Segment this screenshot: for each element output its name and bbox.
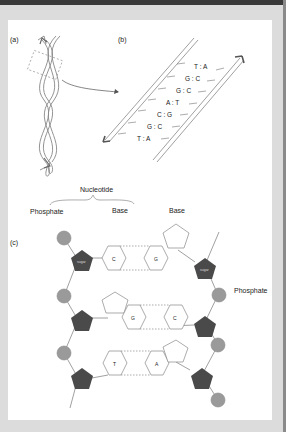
- sugar-labels: sugar sugar: [77, 260, 210, 272]
- phosphate-label-left: Phosphate: [30, 208, 64, 216]
- rung-2-left-base: G: [131, 315, 135, 321]
- base-label-1: Base: [112, 207, 128, 214]
- nucleotide-label: Nucleotide: [80, 186, 113, 193]
- base-pair-rung-3: [103, 340, 188, 375]
- zoom-pointer-line: [62, 80, 118, 92]
- base-pair-rung-2: [102, 292, 188, 329]
- svg-text:G : C: G : C: [185, 75, 200, 82]
- base-pair-rung-1: [102, 224, 189, 270]
- phosphate-label-right: Phosphate: [234, 287, 268, 295]
- double-helix: [38, 36, 60, 176]
- svg-text:T : A: T : A: [137, 135, 151, 142]
- strand-arrow-down-icon: [103, 136, 110, 142]
- rung-1-left-base: C: [112, 256, 116, 262]
- rung-1-right-base: G: [154, 256, 158, 262]
- svg-text:C : G: C : G: [157, 111, 172, 118]
- panel-a-label: (a): [10, 36, 19, 44]
- panel-c-label: (c): [10, 239, 18, 247]
- svg-text:G : C: G : C: [147, 123, 162, 130]
- svg-text:sugar: sugar: [200, 268, 210, 272]
- svg-text:A : T: A : T: [166, 99, 179, 106]
- rung-2-right-base: C: [173, 315, 177, 321]
- svg-text:sugar: sugar: [77, 260, 87, 264]
- rung-3-left-base: T: [113, 361, 116, 367]
- svg-text:G : C: G : C: [176, 87, 191, 94]
- svg-text:T : A: T : A: [194, 63, 208, 70]
- zoom-region-box: [27, 50, 62, 79]
- dna-diagram: (a) (b) T : A G : C G : C A : T C : G: [0, 0, 286, 432]
- base-pair-labels: T : A G : C G : C A : T C : G G : C T : …: [137, 63, 208, 142]
- zoom-pointer-arrowhead-icon: [114, 89, 119, 94]
- base-label-2: Base: [169, 207, 185, 214]
- nucleotide-brace: [50, 195, 134, 205]
- panel-b-label: (b): [118, 36, 127, 44]
